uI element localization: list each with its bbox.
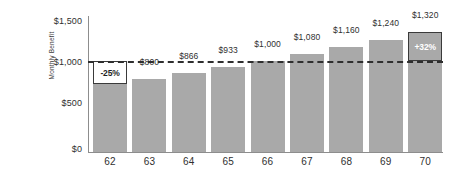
bar[interactable] [211, 67, 245, 152]
x-tick-label: 68 [329, 156, 363, 167]
bar-group[interactable]: $1,080 [290, 16, 324, 152]
x-tick-label: 70 [408, 156, 442, 167]
bar-group[interactable]: $866 [172, 16, 206, 152]
x-tick-label: 62 [93, 156, 127, 167]
y-tick-label: $0 [30, 144, 82, 154]
bar-group[interactable]: $800 [132, 16, 166, 152]
bar[interactable] [369, 40, 403, 152]
y-tick-label: $1,500 [30, 16, 82, 26]
bar-group[interactable]: $933 [211, 16, 245, 152]
bar-value-label: $1,320 [396, 10, 451, 20]
increase-callout: +32% [408, 32, 442, 61]
x-axis-tick-labels: 626364656667686970 [88, 156, 443, 176]
y-axis-tick-labels: $1,500 $1,000 $500 $0 [30, 0, 82, 181]
bar[interactable] [290, 54, 324, 152]
bar-group[interactable]: $1,240 [369, 16, 403, 152]
reduction-callout: -25% [93, 61, 127, 84]
x-tick-label: 66 [251, 156, 285, 167]
x-axis-line [88, 152, 443, 153]
x-tick-label: 63 [132, 156, 166, 167]
plot-area: $750$800$866$933$1,000$1,080$1,160$1,240… [88, 16, 443, 152]
bar-group[interactable]: $750 [93, 16, 127, 152]
x-tick-label: 69 [369, 156, 403, 167]
x-tick-label: 65 [211, 156, 245, 167]
benefit-bar-chart: Monthly Benefit $1,500 $1,000 $500 $0 $7… [0, 0, 451, 181]
bar[interactable] [172, 73, 206, 152]
x-tick-label: 64 [172, 156, 206, 167]
bar[interactable] [132, 79, 166, 152]
bar[interactable] [93, 84, 127, 152]
y-tick-label: $1,000 [30, 57, 82, 67]
bar-group[interactable]: $1,160 [329, 16, 363, 152]
x-tick-label: 67 [290, 156, 324, 167]
bars-layer: $750$800$866$933$1,000$1,080$1,160$1,240… [88, 16, 443, 152]
reference-line [88, 61, 443, 63]
bar[interactable] [251, 61, 285, 152]
y-tick-label: $500 [30, 98, 82, 108]
